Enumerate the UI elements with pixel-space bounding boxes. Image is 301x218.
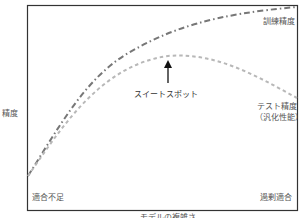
test-accuracy-sublabel: （汎化性能） bbox=[255, 113, 301, 123]
overfit-label: 過剰適合 bbox=[260, 193, 292, 203]
train-accuracy-label: 訓練精度 bbox=[263, 17, 295, 27]
y-axis-label: 精度 bbox=[2, 109, 18, 119]
sweet-spot-arrow-head bbox=[164, 60, 172, 68]
chart-plot bbox=[0, 0, 301, 218]
underfit-label: 適合不足 bbox=[32, 193, 64, 203]
sweet-spot-label: スイートスポット bbox=[134, 90, 198, 100]
x-axis-label: モデルの複雑さ bbox=[140, 213, 196, 218]
test-accuracy-label: テスト精度 bbox=[257, 102, 297, 112]
